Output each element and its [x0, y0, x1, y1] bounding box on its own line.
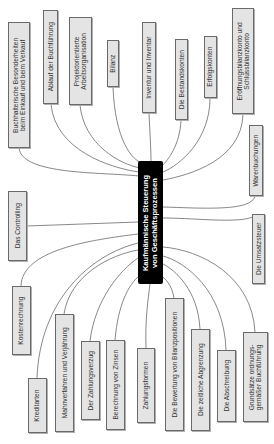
node-der-zahlungsverzug[interactable]: Der Zahlungsverzug — [81, 341, 100, 420]
node-buchhalterische-besonderheiten[interactable]: Buchhalterische Besonderheiten beim Eink… — [8, 22, 30, 148]
node-grundsaetze-ordnungsgemaesser-buchfuehrung[interactable]: Grundsätze ordnungs- gemäßer Buchführung — [243, 332, 268, 422]
node-bilanz[interactable]: Bilanz — [107, 40, 119, 87]
node-die-umsatzsteuer[interactable]: Die Umsatzsteuer — [252, 214, 265, 284]
node-warenbuchungen[interactable]: Warenbuchungen — [249, 125, 263, 196]
node-die-abschreibung[interactable]: Die Abschreibung — [217, 350, 236, 422]
node-inventur-und-inventar[interactable]: Inventur und Inventar — [142, 22, 156, 113]
node-erfolgskonten[interactable]: Erfolgskonten — [204, 36, 217, 98]
node-berechnung-von-zinsen[interactable]: Berechnung von Zinsen — [106, 340, 125, 430]
central-topic[interactable]: Kaufmännische Steuerung von Geschäftspro… — [138, 161, 163, 284]
node-zeitliche-abgrenzung[interactable]: Die zeitliche Abgrenzung — [191, 329, 210, 431]
node-eroeffnungsbilanzkonto[interactable]: Eröffnungsbilanzkonto und Schlussbilanzk… — [232, 8, 254, 114]
node-mahnverfahren[interactable]: Mahnverfahren und Verjährung — [55, 314, 74, 432]
node-zahlungsformen[interactable]: Zahlungsformen — [137, 348, 155, 423]
node-projektorientierte-arbeitsorganisation[interactable]: Projektorientierte Arbeitsorganisation — [69, 17, 92, 105]
node-die-bestandskonten[interactable]: Die Bestandskonten — [175, 39, 188, 120]
node-ablauf-der-buchfuehrung[interactable]: Ablauf der Buchführung — [43, 10, 58, 104]
node-das-controlling[interactable]: Das Controlling — [8, 191, 27, 261]
central-topic-label: Kaufmännische Steuerung von Geschäftspro… — [142, 174, 160, 270]
node-kreditarten[interactable]: Kreditarten — [28, 378, 47, 433]
node-kostenrechnung[interactable]: Kostenrechnung — [12, 286, 31, 355]
node-bewertung-bilanzpositionen[interactable]: Die Bewertung von Bilanzpositionen — [165, 298, 184, 431]
